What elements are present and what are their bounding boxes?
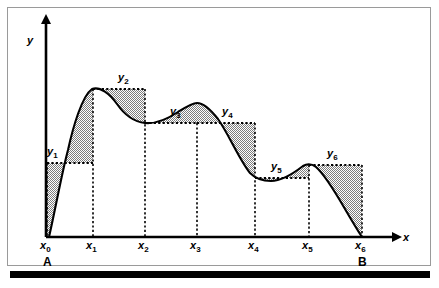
tick-label-x0: x0	[40, 240, 51, 251]
y-axis-arrow-icon	[41, 14, 51, 24]
tick-sub-x2: 2	[144, 245, 148, 254]
height-label-y6: y6	[327, 148, 338, 159]
figure-page: y x x0 x1 x2 x3 x4 x5 x6 y1 y2 y3 y4 y5 …	[0, 0, 439, 288]
tick-label-x6: x6	[355, 240, 366, 251]
height-sub-y5: 5	[277, 166, 281, 175]
tick-label-x4: x4	[248, 240, 259, 251]
shaded-difference-regions	[0, 0, 439, 288]
x-axis-arrow-icon	[392, 232, 402, 242]
height-label-y5: y5	[271, 161, 282, 172]
tick-sub-x4: 4	[254, 245, 258, 254]
height-sub-y6: 6	[333, 153, 337, 162]
tick-sub-x5: 5	[308, 245, 312, 254]
height-sub-y2: 2	[124, 77, 128, 86]
y-axis-label: y	[27, 35, 33, 46]
height-label-y1: y1	[47, 146, 58, 157]
tick-sub-x3: 3	[196, 245, 200, 254]
tick-label-x2: x2	[138, 240, 149, 251]
height-sub-y3: 3	[176, 111, 180, 120]
height-label-y2: y2	[118, 72, 129, 83]
x-axis-label: x	[403, 232, 409, 243]
height-sub-y4: 4	[228, 111, 232, 120]
tick-label-x1: x1	[86, 240, 97, 251]
tick-label-x5: x5	[302, 240, 313, 251]
height-label-y4: y4	[222, 106, 233, 117]
endpoint-label-a: A	[43, 256, 52, 268]
tick-sub-x0: 0	[46, 245, 50, 254]
height-sub-y1: 1	[53, 151, 57, 160]
tick-label-x3: x3	[190, 240, 201, 251]
height-label-y3: y3	[170, 106, 181, 117]
tick-sub-x6: 6	[361, 245, 365, 254]
tick-sub-x1: 1	[92, 245, 96, 254]
riemann-sum-plot	[0, 0, 439, 288]
endpoint-label-b: B	[358, 256, 367, 268]
bottom-black-bar	[10, 271, 430, 278]
